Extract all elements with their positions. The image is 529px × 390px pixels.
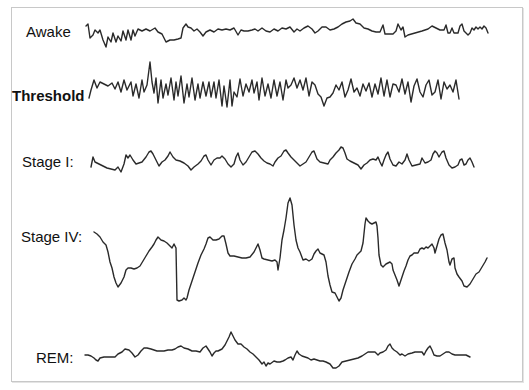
stage-1-label: Stage I: (22, 154, 74, 169)
awake-label: Awake (26, 24, 71, 39)
stage-4-label: Stage IV: (21, 229, 82, 244)
rem-label: REM: (36, 350, 74, 365)
awake-waveform (86, 19, 488, 47)
eeg-waveforms (0, 0, 529, 390)
threshold-waveform (89, 62, 459, 107)
stage-4-waveform (94, 198, 487, 301)
stage-1-waveform (91, 147, 474, 172)
rem-waveform (85, 332, 470, 368)
threshold-label: Threshold (12, 88, 85, 103)
